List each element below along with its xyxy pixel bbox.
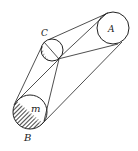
- label-a: A: [107, 24, 115, 34]
- tangent-b-c-left: [14, 46, 42, 105]
- diagram-canvas: C A m B: [0, 0, 138, 151]
- chord-c: [44, 42, 59, 59]
- label-c: C: [41, 28, 48, 38]
- tangent-b-a: [42, 42, 122, 124]
- cross-b-c: [17, 59, 59, 101]
- label-m: m: [31, 103, 40, 114]
- circle-b: [13, 95, 47, 135]
- tangent-c-a-bottom: [58, 44, 118, 59]
- circle-c: [41, 39, 63, 61]
- label-b: B: [23, 132, 31, 143]
- tangent-b-c-right: [44, 59, 59, 121]
